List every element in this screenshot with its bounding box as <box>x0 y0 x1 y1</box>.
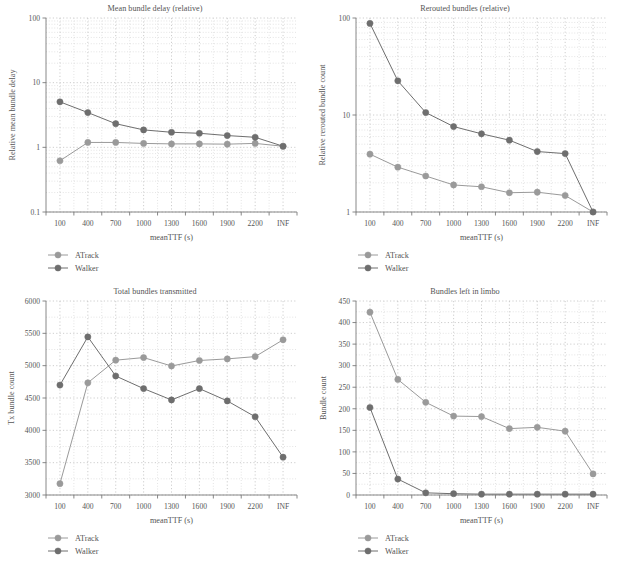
x-tick-label: 1600 <box>192 502 207 511</box>
legend-marker-dot <box>55 265 61 271</box>
data-point <box>196 386 202 392</box>
data-point <box>590 209 596 215</box>
y-tick-label: 150 <box>339 426 351 435</box>
data-point <box>196 141 202 147</box>
data-point <box>252 414 258 420</box>
x-tick-label: 100 <box>364 502 376 511</box>
legend-marker-dot <box>55 535 61 541</box>
series-line <box>60 340 283 484</box>
axes <box>353 301 608 499</box>
x-tick-label: 400 <box>392 502 404 511</box>
legend-label: ATrack <box>385 251 410 260</box>
data-point <box>85 380 91 386</box>
data-point <box>85 139 91 145</box>
legend-marker-dot <box>55 548 61 554</box>
x-tick-label: 100 <box>364 219 376 228</box>
figure-root: Mean bundle delay (relative)0.1110100100… <box>0 0 620 566</box>
x-tick-label: 700 <box>110 502 122 511</box>
x-axis-label: meanTTF (s) <box>460 233 503 242</box>
data-point <box>534 491 540 497</box>
legend-marker-dot <box>365 265 371 271</box>
x-tick-label: 1900 <box>530 219 545 228</box>
x-tick-label: 1900 <box>220 219 235 228</box>
legend-marker-dot <box>55 252 61 258</box>
y-tick-label: 3000 <box>25 491 40 500</box>
chart-title: Mean bundle delay (relative) <box>108 4 203 13</box>
legend-label: Walker <box>75 264 99 273</box>
x-tick-label: 1300 <box>164 219 179 228</box>
y-tick-label: 1 <box>346 208 350 217</box>
x-tick-label: 1900 <box>220 502 235 511</box>
data-point <box>252 134 258 140</box>
y-tick-label: 0 <box>346 491 350 500</box>
data-point <box>506 426 512 432</box>
x-tick-label: 400 <box>392 219 404 228</box>
legend-label: Walker <box>385 264 409 273</box>
data-point <box>168 363 174 369</box>
data-point <box>395 78 401 84</box>
x-tick-label: 2200 <box>558 219 573 228</box>
data-point <box>451 123 457 129</box>
data-point <box>562 428 568 434</box>
data-point <box>451 413 457 419</box>
x-axis-label: meanTTF (s) <box>150 233 193 242</box>
x-axis-label: meanTTF (s) <box>150 516 193 525</box>
y-tick-label: 100 <box>339 14 351 23</box>
y-tick-label: 450 <box>339 297 351 306</box>
data-point <box>252 140 258 146</box>
data-point <box>590 491 596 497</box>
chart-title: Rerouted bundles (relative) <box>420 4 510 13</box>
legend-label: Walker <box>385 547 409 556</box>
data-point <box>423 399 429 405</box>
x-tick-label: 1000 <box>446 219 461 228</box>
data-point <box>280 143 286 149</box>
data-point <box>85 334 91 340</box>
data-point <box>534 189 540 195</box>
y-axis-tick-labels: 110100 <box>339 14 351 217</box>
data-point <box>562 192 568 198</box>
y-axis-label: Tx bundle count <box>7 370 16 424</box>
data-point <box>168 141 174 147</box>
data-point <box>113 139 119 145</box>
x-tick-label: 100 <box>54 502 66 511</box>
y-axis-label: Relative mean bundle delay <box>8 69 17 161</box>
y-tick-label: 10 <box>32 78 40 87</box>
data-point <box>113 121 119 127</box>
chart-panel-mean-bundle-delay: Mean bundle delay (relative)0.1110100100… <box>0 0 310 283</box>
legend: ATrackWalker <box>48 251 100 273</box>
legend-label: ATrack <box>75 251 100 260</box>
data-point <box>423 173 429 179</box>
x-tick-label: 2200 <box>248 219 263 228</box>
y-tick-label: 300 <box>339 361 351 370</box>
data-point <box>395 376 401 382</box>
x-tick-label: INF <box>587 219 599 228</box>
x-tick-label: 2200 <box>558 502 573 511</box>
x-tick-label: 1600 <box>192 219 207 228</box>
x-tick-label: INF <box>277 502 289 511</box>
chart-title: Bundles left in limbo <box>430 287 499 296</box>
data-point <box>57 481 63 487</box>
series-line <box>370 154 593 212</box>
gridlines <box>356 18 607 212</box>
data-point <box>478 491 484 497</box>
x-tick-label: 1000 <box>446 502 461 511</box>
y-tick-label: 1 <box>36 143 40 152</box>
y-axis-tick-labels: 0.1110100 <box>29 14 41 217</box>
data-point <box>395 476 401 482</box>
legend-label: Walker <box>75 547 99 556</box>
data-point <box>196 130 202 136</box>
y-tick-label: 0.1 <box>31 208 41 217</box>
data-point <box>113 357 119 363</box>
data-point <box>168 397 174 403</box>
data-point <box>252 354 258 360</box>
x-axis-tick-labels: 10040070010001300160019002200INF <box>54 219 289 228</box>
data-point <box>451 182 457 188</box>
data-point <box>57 158 63 164</box>
chart-total-bundles-transmitted: Total bundles transmitted300035004000450… <box>0 283 310 566</box>
legend: ATrackWalker <box>358 251 410 273</box>
data-point <box>113 373 119 379</box>
data-point <box>506 491 512 497</box>
chart-title: Total bundles transmitted <box>113 287 196 296</box>
chart-panel-bundles-left-in-limbo: Bundles left in limbo0501001502002503003… <box>310 283 620 566</box>
y-axis-tick-labels: 050100150200250300350400450 <box>339 297 351 500</box>
